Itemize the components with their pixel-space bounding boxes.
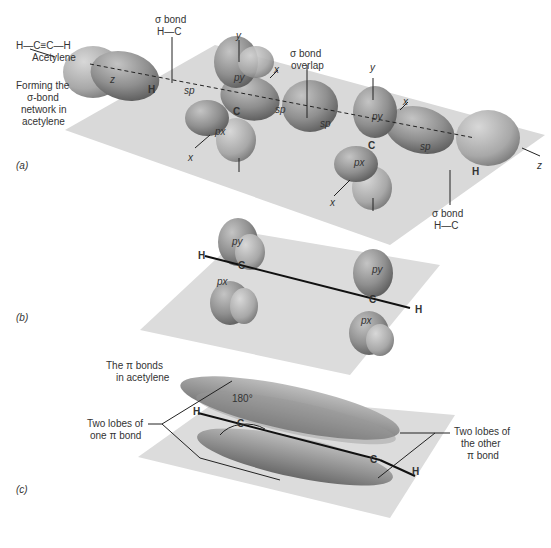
right-note-3: π bond (467, 450, 499, 462)
axis-x3: x (188, 152, 193, 164)
orbital-px-1: px (215, 126, 226, 138)
orbital-sp-2: sp (275, 104, 286, 116)
atom-c-b2: C (369, 294, 376, 306)
atom-c-2: C (368, 140, 375, 152)
acetylene-formula: H—C≡C—H (16, 40, 71, 52)
sigma-hc-right-1: σ bond (432, 208, 463, 220)
panel-a-label: (a) (16, 160, 28, 172)
h-s-orbital-right (456, 110, 520, 166)
orbital-sp-1: sp (184, 85, 195, 97)
left-note-2: one π bond (90, 430, 141, 442)
orbital-py-1: py (234, 72, 245, 84)
right-note-2: the other (461, 438, 500, 450)
panel-c-label: (c) (16, 484, 28, 496)
angle-label: 180° (232, 393, 253, 405)
pi-caption-2: in acetylene (116, 372, 169, 384)
caption-a-line3: network in (21, 104, 67, 116)
caption-a-line4: acetylene (22, 116, 65, 128)
axis-z-right: z (537, 160, 542, 172)
atom-c-1: C (233, 106, 240, 118)
orbital-py-2: py (372, 111, 383, 123)
axis-x1: x (274, 64, 279, 76)
axis-z-left: z (110, 74, 115, 86)
orbital-py-b2: py (372, 264, 383, 276)
axis-x2: x (403, 96, 408, 108)
sigma-hc-left-1: σ bond (155, 14, 186, 26)
sigma-hc-left-2: H—C (157, 26, 181, 38)
orbital-sp-4: sp (420, 141, 431, 153)
orbital-px-2: px (354, 157, 365, 169)
pi-caption-1: The π bonds (106, 360, 163, 372)
atom-h-b2: H (415, 304, 422, 316)
acetylene-orbital-diagram (0, 0, 551, 548)
atom-h-b1: H (198, 250, 205, 262)
sigma-overlap-2: overlap (291, 60, 324, 72)
caption-a-line1: Forming the (16, 80, 69, 92)
atom-h-c2: H (412, 466, 419, 478)
atom-c-c1: C (237, 418, 244, 430)
orbital-py-b1: py (232, 236, 243, 248)
panel-b-label: (b) (16, 312, 28, 324)
atom-c-b1: C (238, 260, 245, 272)
atom-c-c2: C (370, 454, 377, 466)
atom-h-c1: H (193, 406, 200, 418)
orbital-px-b2: px (361, 315, 372, 327)
caption-a-line2: σ-bond (27, 92, 59, 104)
atom-h-2: H (472, 166, 479, 178)
sigma-hc-right-2: H—C (434, 220, 458, 232)
axis-y2: y (370, 62, 375, 74)
orbital-px-b1: px (217, 276, 228, 288)
left-note-1: Two lobes of (87, 418, 143, 430)
sigma-overlap-1: σ bond (290, 48, 321, 60)
orbital-sp-3: sp (320, 118, 331, 130)
axis-y1: y (236, 30, 241, 42)
axis-x4: x (330, 197, 335, 209)
atom-h-1: H (148, 84, 155, 96)
molecule-name: Acetylene (32, 52, 76, 64)
right-note-1: Two lobes of (454, 426, 510, 438)
